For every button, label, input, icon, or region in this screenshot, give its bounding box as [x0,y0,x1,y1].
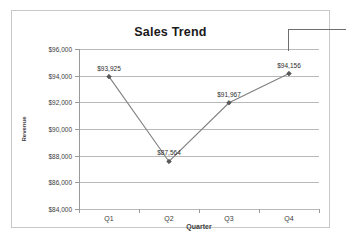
x-tick-mark [319,209,320,213]
x-tick-label: Q2 [164,215,173,222]
y-axis-title: Revenue [21,116,27,141]
x-tick-label: Q1 [104,215,113,222]
series-line [79,49,319,209]
x-tick-mark [79,209,80,213]
leader-line-annotation [288,29,346,51]
chart-container: Sales Trend Revenue Quarter $84,000$86,0… [11,10,330,228]
data-point-label: $94,156 [277,62,301,69]
data-point-label: $91,967 [217,91,241,98]
data-point-marker [287,71,292,76]
y-tick-label: $84,000 [49,206,73,213]
data-point-label: $87,564 [157,149,181,156]
x-tick-mark [259,209,260,213]
x-tick-mark [199,209,200,213]
data-point-label: $93,925 [97,65,121,72]
y-tick-label: $96,000 [49,46,73,53]
x-axis-title: Quarter [79,223,319,230]
leader-line-vertical [288,29,289,51]
leader-line-horizontal [288,29,346,30]
y-tick-label: $88,000 [49,152,73,159]
x-tick-mark [139,209,140,213]
plot-area: $84,000$86,000$88,000$90,000$92,000$94,0… [79,49,319,209]
x-tick-label: Q3 [224,215,233,222]
y-tick-label: $86,000 [49,179,73,186]
y-tick-label: $92,000 [49,99,73,106]
chart-title: Sales Trend [12,25,329,39]
x-tick-label: Q4 [284,215,293,222]
y-tick-label: $94,000 [49,72,73,79]
series-polyline [109,74,289,162]
y-tick-label: $90,000 [49,126,73,133]
